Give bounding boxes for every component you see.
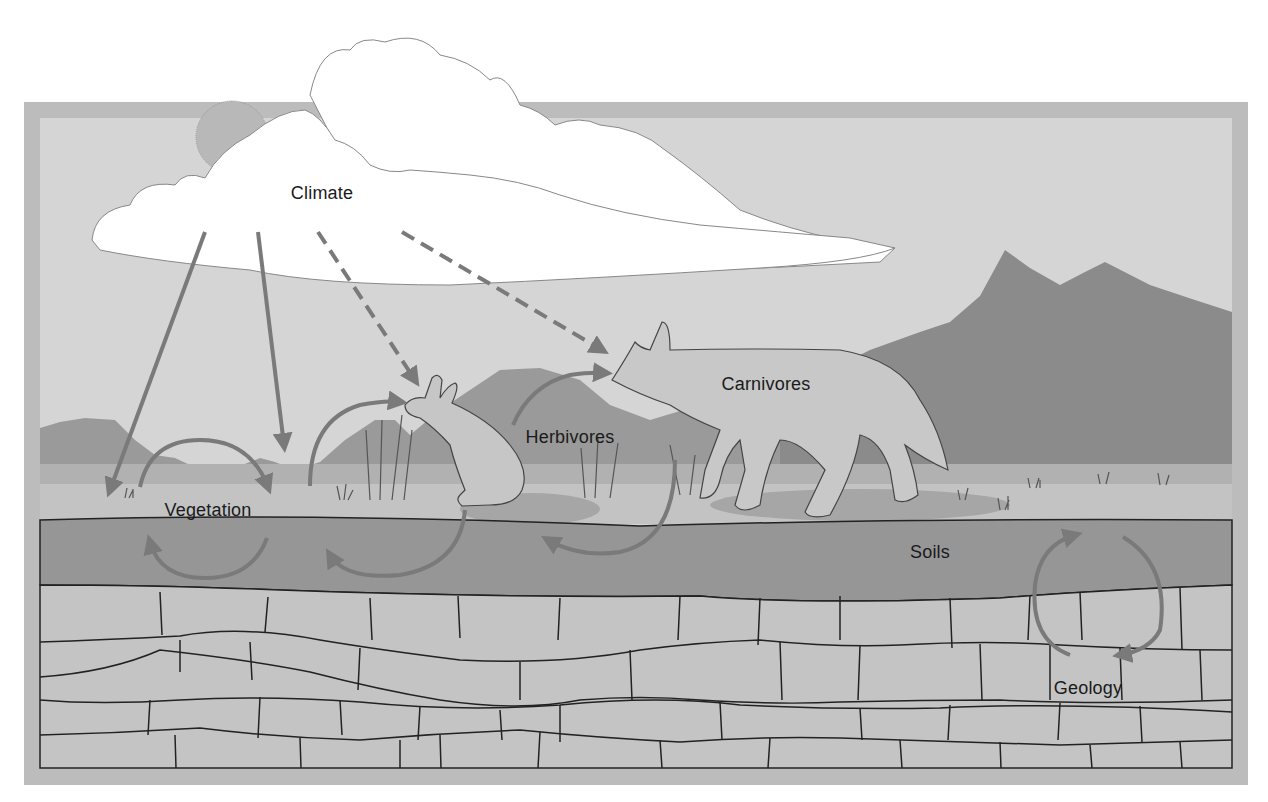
grass-band: [40, 464, 1232, 484]
climate-label: Climate: [291, 183, 353, 204]
carnivores-label: Carnivores: [721, 374, 810, 395]
soils-label: Soils: [910, 542, 950, 563]
geology-label: Geology: [1054, 678, 1122, 699]
bedrock-layers: [40, 585, 1232, 768]
vegetation-label: Vegetation: [164, 500, 251, 521]
herbivores-label: Herbivores: [525, 427, 614, 448]
